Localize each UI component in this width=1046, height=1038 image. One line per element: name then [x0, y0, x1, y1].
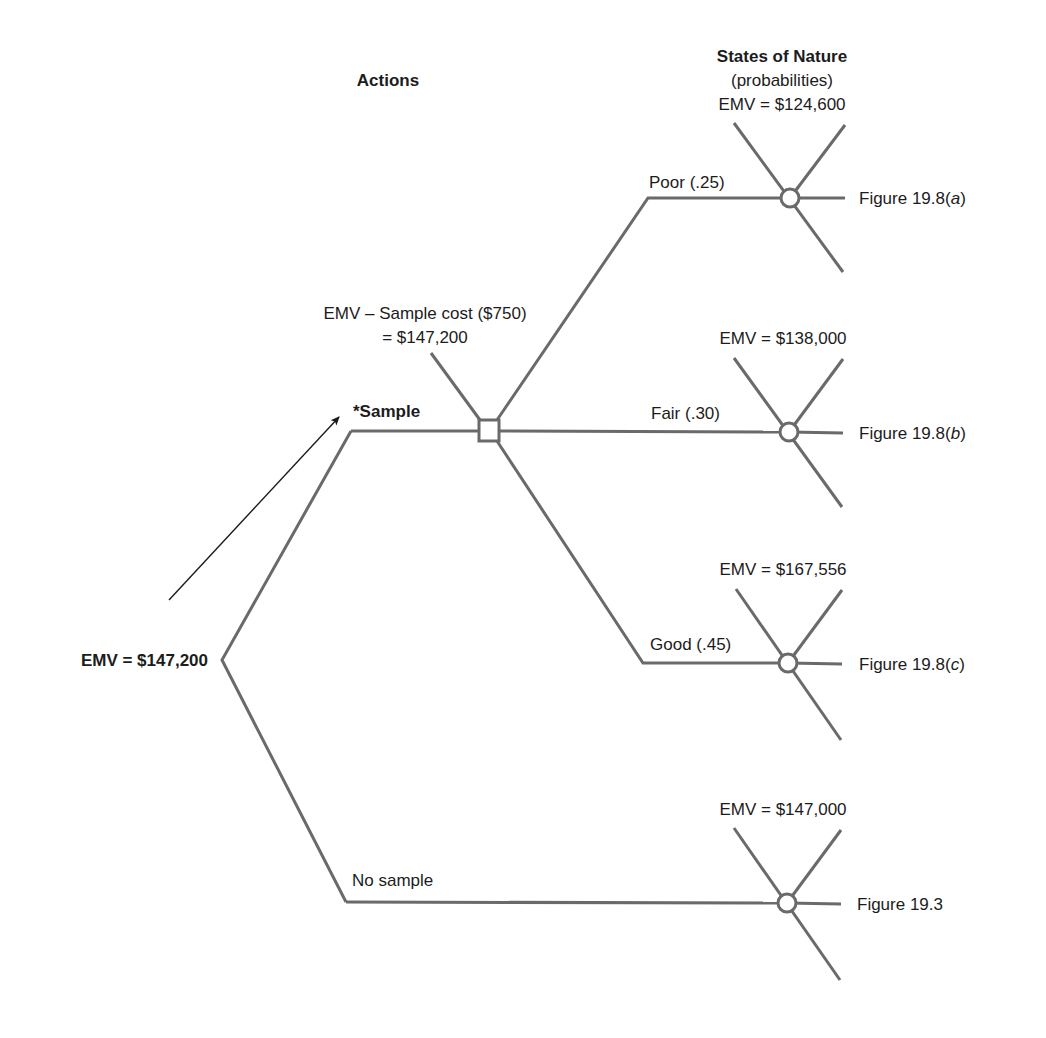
- outcome-poor-label: Poor (.25): [649, 173, 725, 192]
- no-sample-figure-ref: Figure 19.3: [857, 895, 943, 914]
- good-emv: EMV = $167,556: [719, 560, 846, 579]
- action-sample-label: *Sample: [353, 402, 420, 421]
- fair-figure-ref: Figure 19.8(b): [859, 424, 966, 443]
- fair-emv: EMV = $138,000: [719, 329, 846, 348]
- sample-note-pointer: [431, 353, 480, 420]
- optimal-action-arrow-icon: [169, 417, 339, 600]
- fair-branch: [499, 431, 780, 432]
- poor-emv: EMV = $124,600: [718, 95, 845, 114]
- outcome-good-label: Good (.45): [650, 635, 731, 654]
- header-actions: Actions: [357, 71, 419, 90]
- decision-tree: Actions States of Nature (probabilities)…: [0, 0, 1046, 1038]
- chance-node-circle-icon: [778, 894, 796, 912]
- no-sample-branch: [346, 902, 778, 903]
- no-sample-emv: EMV = $147,000: [719, 800, 846, 819]
- action-no-sample-label: No sample: [352, 871, 433, 890]
- chance-node-circle-icon: [781, 189, 799, 207]
- sample-cost-note-line1: EMV – Sample cost ($750): [323, 304, 526, 323]
- good-figure-ref: Figure 19.8(c): [859, 655, 965, 674]
- decision-node-square-icon: [479, 420, 499, 441]
- good-branch: [497, 441, 779, 663]
- poor-branch: [497, 198, 780, 420]
- header-probabilities: (probabilities): [731, 71, 833, 90]
- root-emv-label: EMV = $147,200: [81, 651, 208, 670]
- root-branches: [222, 431, 351, 902]
- sample-cost-note-line2: = $147,200: [382, 328, 468, 347]
- outcome-fair-label: Fair (.30): [651, 404, 720, 423]
- poor-figure-ref: Figure 19.8(a): [859, 189, 966, 208]
- header-states-of-nature: States of Nature: [717, 47, 847, 66]
- chance-node-circle-icon: [779, 654, 797, 672]
- chance-node-circle-icon: [780, 423, 798, 441]
